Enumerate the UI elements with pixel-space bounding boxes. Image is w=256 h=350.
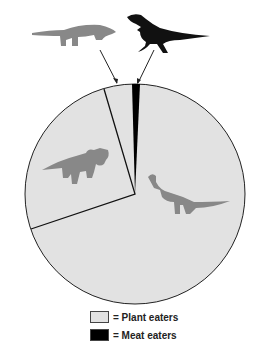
legend-item-meat-eaters: = Meat eaters bbox=[90, 327, 178, 343]
arrowhead-plant bbox=[113, 78, 118, 84]
legend-label-meat: = Meat eaters bbox=[113, 330, 177, 341]
arrow-meat bbox=[138, 50, 154, 83]
legend-label-plant: = Plant eaters bbox=[113, 312, 178, 323]
legend-swatch-meat bbox=[90, 329, 109, 341]
arrow-plant bbox=[100, 50, 117, 83]
legend: = Plant eaters = Meat eaters bbox=[90, 309, 178, 345]
legend-swatch-plant bbox=[90, 311, 109, 323]
tyrannosaur-icon bbox=[127, 14, 210, 53]
ankylosaur-icon bbox=[32, 25, 116, 46]
legend-item-plant-eaters: = Plant eaters bbox=[90, 309, 178, 325]
pie-chart bbox=[0, 0, 256, 350]
